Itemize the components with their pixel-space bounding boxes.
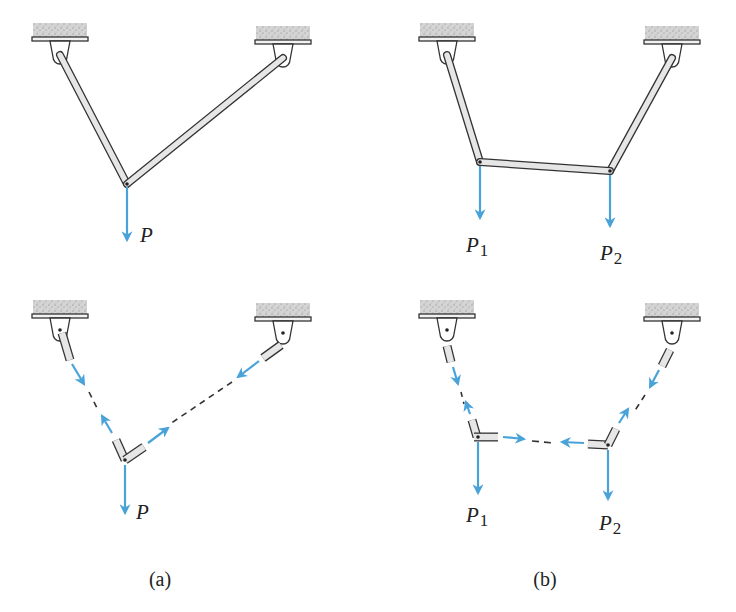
panel-a-free-body: P (32, 300, 311, 524)
member-force-arrow-icon (72, 364, 84, 384)
right-pin-support-icon (255, 303, 311, 344)
load-label-p2: P2 (598, 511, 621, 538)
left-pin-support-icon (419, 300, 475, 341)
panel-a-structure: P (32, 23, 311, 247)
member-force-arrow-icon (453, 367, 458, 384)
member-force-arrow-icon (466, 402, 470, 414)
member-force-arrow-icon (503, 437, 524, 439)
load-label-p1: P1 (465, 503, 488, 530)
member-force-arrow-icon (148, 428, 168, 443)
load-label-p: P (135, 500, 149, 524)
load-label-p2: P2 (599, 241, 622, 268)
member-force-arrow-icon (650, 370, 659, 387)
member-force-arrow-icon (562, 442, 584, 443)
right-pin-support-icon (644, 303, 700, 344)
panel-b-structure: P1 P2 (419, 23, 700, 268)
member-force-arrow-icon (619, 409, 628, 423)
caption-b: (b) (533, 568, 556, 591)
load-label-p: P (139, 223, 153, 247)
member-force-arrow-icon (102, 416, 112, 433)
member-force-arrow-icon (238, 361, 259, 377)
load-label-p1: P1 (465, 233, 488, 260)
caption-a: (a) (149, 568, 171, 591)
truss-figure: P P1 P2 (0, 0, 736, 612)
panel-b-free-body: P1 P2 (419, 300, 700, 538)
